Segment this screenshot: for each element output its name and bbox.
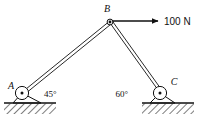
ground-left-hatching	[4, 104, 56, 115]
member-ab	[24, 20, 113, 93]
support-c	[150, 86, 175, 103]
diagram-canvas: A B C 45° 60° 100 N	[0, 0, 201, 126]
angle-label-a: 45°	[44, 89, 57, 99]
angle-label-c: 60°	[115, 89, 128, 99]
ground-left	[4, 103, 56, 114]
ground-right-hatching	[142, 104, 194, 115]
joint-label-b: B	[104, 3, 110, 14]
support-a-pin-dot	[21, 92, 24, 95]
joint-b	[107, 19, 113, 25]
statics-diagram-figure: A B C 45° 60° 100 N	[0, 0, 201, 126]
support-a	[13, 86, 41, 103]
member-bc	[109, 20, 161, 91]
joint-label-a: A	[7, 80, 15, 91]
joint-b-pin-dot	[109, 21, 112, 24]
load-label: 100 N	[164, 16, 191, 27]
support-c-pin-dot	[159, 92, 162, 95]
ground-right	[142, 103, 194, 114]
member-ab-body	[24, 20, 113, 93]
member-bc-body	[109, 20, 161, 91]
joint-label-c: C	[171, 76, 178, 87]
